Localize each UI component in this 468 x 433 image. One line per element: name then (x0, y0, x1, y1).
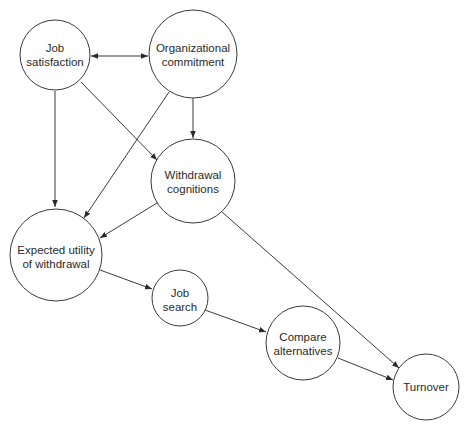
node-organizational-commitment: Organizational commitment (149, 10, 237, 98)
node-job-search: Job search (152, 270, 208, 326)
node-label: of withdrawal (22, 258, 89, 270)
node-expected-utility: Expected utility of withdrawal (10, 209, 102, 301)
edge-compare-turnover (338, 358, 393, 380)
edge-satisfaction-withdrawal (81, 82, 157, 160)
node-label: commitment (162, 56, 225, 68)
node-label: Turnover (403, 381, 449, 393)
node-turnover: Turnover (393, 354, 459, 420)
node-label: Job (46, 42, 65, 54)
node-label: Job (171, 287, 190, 299)
node-label: alternatives (274, 345, 333, 357)
node-withdrawal-cognitions: Withdrawal cognitions (151, 139, 235, 223)
node-label: Withdrawal (165, 169, 222, 181)
node-compare-alternatives: Compare alternatives (266, 306, 340, 380)
edge-utility-jobsearch (100, 270, 152, 289)
edge-withdrawal-utility (100, 203, 157, 238)
node-label: Organizational (156, 42, 230, 54)
turnover-model-diagram: Job satisfaction Organizational commitme… (0, 0, 468, 433)
node-label: Compare (279, 331, 326, 343)
node-job-satisfaction: Job satisfaction (20, 20, 90, 90)
edge-jobsearch-compare (205, 310, 266, 332)
node-label: satisfaction (26, 56, 84, 68)
node-label: search (163, 301, 198, 313)
node-label: cognitions (167, 183, 219, 195)
node-label: Expected utility (17, 244, 95, 256)
